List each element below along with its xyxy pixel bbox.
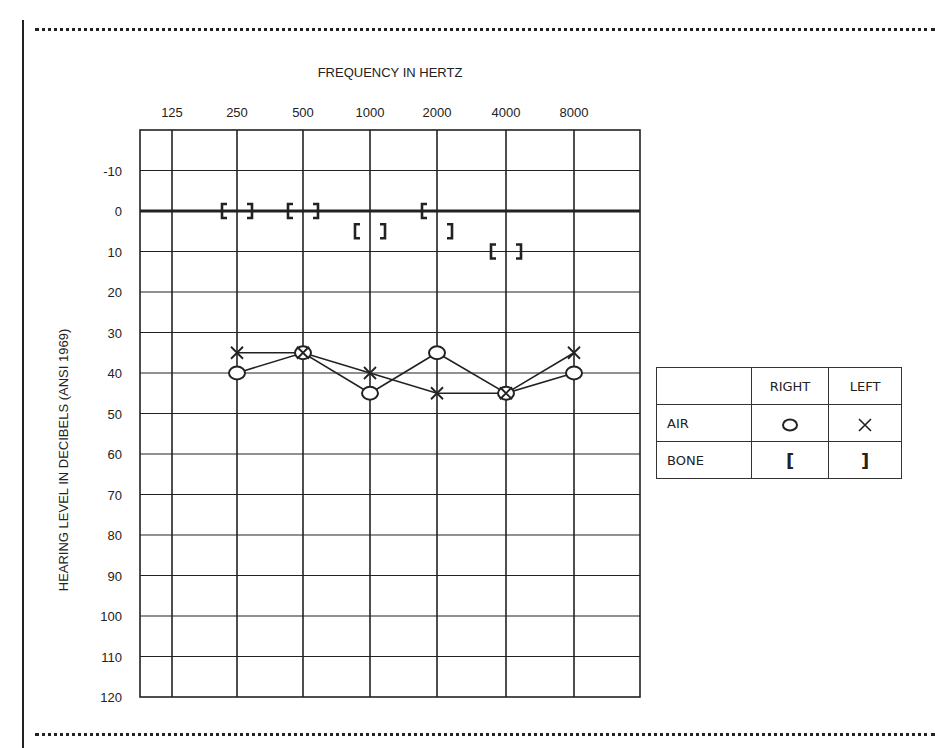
- bone-right-bracket-marker: [355, 224, 360, 238]
- y-tick-label: -10: [103, 164, 122, 179]
- x-marker-icon: [857, 417, 873, 433]
- legend-header-right: RIGHT: [752, 368, 829, 405]
- legend-bone-left-symbol: ]: [829, 442, 902, 479]
- symbol-legend: RIGHT LEFT AIR BONE [ ]: [656, 367, 902, 479]
- x-tick-label: 125: [161, 105, 183, 120]
- y-tick-label: 0: [115, 204, 122, 219]
- x-tick-label: 500: [292, 105, 314, 120]
- bone-left-bracket-marker: [380, 224, 385, 238]
- legend-bone-right-symbol: [: [752, 442, 829, 479]
- y-tick-label: 90: [108, 569, 122, 584]
- y-tick-label: 70: [108, 488, 122, 503]
- x-tick-label: 1000: [356, 105, 385, 120]
- y-tick-label: 10: [108, 245, 122, 260]
- air-right-circle-marker: [362, 387, 378, 400]
- y-tick-label: 30: [108, 326, 122, 341]
- y-axis-title: HEARING LEVEL IN DECIBELS (ANSI 1969): [56, 329, 71, 592]
- x-tick-label: 4000: [492, 105, 521, 120]
- air-right-circle-marker: [429, 346, 445, 359]
- legend-row-air: AIR: [657, 405, 752, 442]
- air-right-circle-marker: [566, 367, 582, 380]
- y-tick-label: 120: [100, 690, 122, 705]
- x-axis-title: FREQUENCY IN HERTZ: [318, 65, 463, 80]
- y-tick-label: 110: [101, 650, 122, 665]
- x-tick-label: 8000: [560, 105, 589, 120]
- circle-marker-icon: [781, 418, 799, 432]
- x-tick-label: 250: [226, 105, 248, 120]
- legend-row-bone: BONE: [657, 442, 752, 479]
- bone-left-bracket-marker: [447, 224, 452, 238]
- y-tick-label: 50: [108, 407, 122, 422]
- legend-corner: [657, 368, 752, 405]
- y-tick-label: 100: [100, 609, 122, 624]
- legend-header-left: LEFT: [829, 368, 902, 405]
- legend-air-right-cell: [752, 405, 829, 442]
- y-tick-label: 40: [108, 366, 122, 381]
- y-tick-label: 20: [108, 285, 122, 300]
- air-right-circle-marker: [229, 367, 245, 380]
- x-tick-label: 2000: [423, 105, 452, 120]
- legend-air-left-cell: [829, 405, 902, 442]
- y-tick-label: 60: [108, 447, 122, 462]
- y-tick-label: 80: [108, 528, 122, 543]
